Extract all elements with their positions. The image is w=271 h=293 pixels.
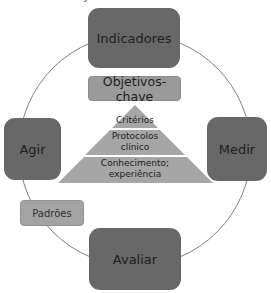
standards-label: Padrões <box>32 208 71 219</box>
diagram-canvas: Estrutura de objetivos e ciclo de melhor… <box>0 0 271 293</box>
cycle-node-medir: Medir <box>207 117 267 181</box>
standards-box: Padrões <box>20 200 84 226</box>
pyramid-tier-label-protocolos: Protocolos clínico <box>95 131 175 153</box>
key-objectives-box: Objetivos-chave <box>88 76 181 101</box>
pyramid-tier-label-conhecimento: Conhecimento; experiência <box>80 158 190 180</box>
pyramid-tier-label-criterios: Critérios <box>105 115 165 126</box>
cycle-node-label: Avaliar <box>113 252 157 267</box>
cycle-node-label: Medir <box>219 142 255 157</box>
key-objectives-label: Objetivos-chave <box>89 74 180 104</box>
cycle-node-avaliar: Avaliar <box>89 228 181 290</box>
cycle-node-agir: Agir <box>4 118 61 180</box>
cycle-node-indicadores: Indicadores <box>88 8 180 68</box>
cycle-node-label: Indicadores <box>96 31 171 46</box>
cycle-node-label: Agir <box>19 142 45 157</box>
